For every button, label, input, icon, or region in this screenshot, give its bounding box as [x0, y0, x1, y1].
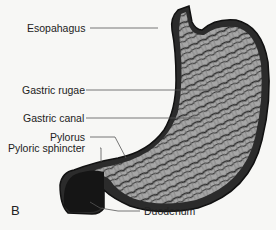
label-pyloric-sphincter: Pyloric sphincter: [8, 142, 85, 154]
label-gastric-canal: Gastric canal: [23, 112, 84, 124]
label-gastric-rugae: Gastric rugae: [22, 84, 85, 96]
label-duodenum: Duodenum: [144, 205, 195, 217]
label-esophagus: Esopahagus: [27, 22, 85, 34]
panel-letter: B: [11, 203, 20, 218]
stomach-diagram: Esopahagus Gastric rugae Gastric canal P…: [0, 0, 276, 230]
